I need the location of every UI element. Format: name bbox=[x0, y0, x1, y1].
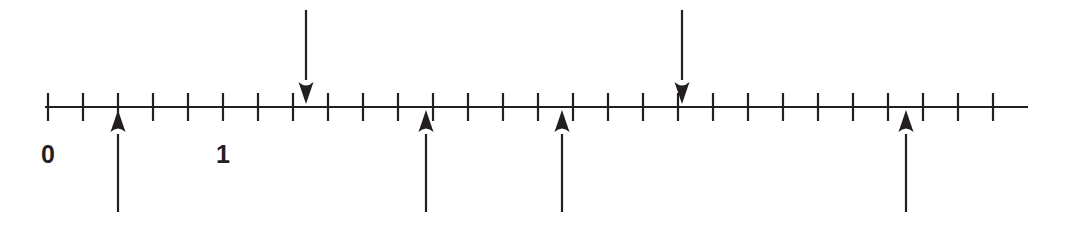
up-arrow-2-icon bbox=[419, 110, 434, 212]
number-line-canvas: 01 bbox=[0, 0, 1073, 231]
tick-label-0: 0 bbox=[41, 140, 55, 168]
number-line-figure: 01 bbox=[0, 0, 1073, 231]
arrow-head-up bbox=[111, 110, 126, 132]
arrow-markers-group bbox=[111, 10, 914, 212]
down-arrow-1-icon bbox=[299, 10, 314, 104]
up-arrow-3-icon bbox=[555, 110, 570, 212]
arrow-head-up bbox=[419, 110, 434, 132]
arrow-head-up bbox=[899, 110, 914, 132]
arrow-head-up bbox=[555, 110, 570, 132]
up-arrow-1-icon bbox=[111, 110, 126, 212]
arrow-head-down bbox=[675, 82, 690, 104]
down-arrow-2-icon bbox=[675, 10, 690, 104]
arrow-head-down bbox=[299, 82, 314, 104]
tick-label-1: 1 bbox=[216, 140, 230, 168]
tick-labels-group: 01 bbox=[41, 140, 230, 168]
up-arrow-4-icon bbox=[899, 110, 914, 212]
